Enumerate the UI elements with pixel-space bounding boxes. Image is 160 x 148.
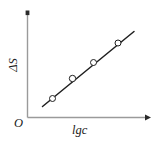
data-point-marker [91,60,97,66]
x-axis-arrow-icon [145,114,151,120]
origin-label: O [14,117,23,130]
y-axis-label: ΔS [0,56,30,74]
chart-figure: ΔS lgc O [0,0,160,148]
data-point-marker [115,40,121,46]
data-point-marker [69,75,75,81]
data-point-marker [50,96,56,102]
x-axis-label: lgc [72,124,87,137]
y-axis-arrow-icon [26,11,30,16]
